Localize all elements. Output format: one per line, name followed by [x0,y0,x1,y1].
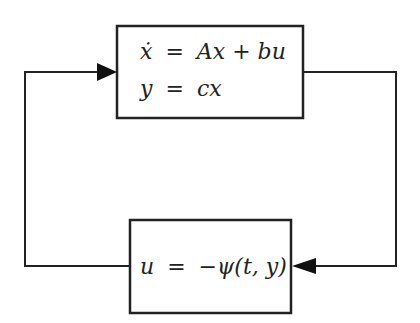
feedback-path-line [25,72,130,266]
forward-path-line [303,72,396,266]
block-diagram: ẋ = Ax + bu y = cx u = −ψ(t, y) [0,0,420,323]
feedback-equation: u = −ψ(t, y) [140,254,287,279]
arrowhead-into-feedback-icon [292,258,316,274]
plant-equation-2: y = cx [139,76,222,101]
plant-equation-1: ẋ = Ax + bu [140,39,286,64]
arrowhead-into-plant-icon [97,63,117,81]
